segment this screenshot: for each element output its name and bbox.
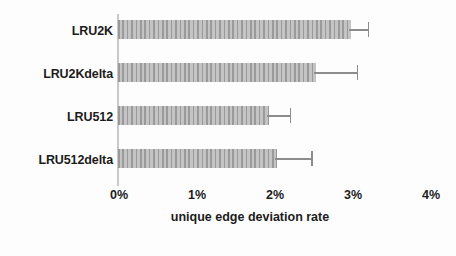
category-label-lru512delta: LRU512delta [1, 153, 113, 167]
x-axis: 0% 1% 2% 3% 4% [0, 188, 456, 206]
x-tick-0: 0% [99, 188, 139, 202]
error-bar-cap-lru512delta [311, 151, 313, 166]
category-label-lru2k: LRU2K [1, 24, 113, 38]
error-bar-line-lru2k [349, 29, 367, 31]
x-tick-2: 2% [255, 188, 295, 202]
error-bar-line-lru512 [267, 115, 290, 117]
bar-lru512 [118, 106, 269, 125]
bar-lru2k [118, 20, 351, 39]
category-label-lru2kdelta: LRU2Kdelta [1, 67, 113, 81]
error-bar-line-lru2kdelta [314, 72, 357, 74]
bar-lru512delta [118, 149, 277, 168]
bar-row [118, 100, 430, 143]
x-tick-4: 4% [411, 188, 451, 202]
x-axis-title: unique edge deviation rate [0, 210, 456, 224]
plot-area [118, 14, 430, 186]
error-bar-cap-lru512 [290, 108, 292, 123]
category-label-column: LRU2K LRU2Kdelta LRU512 LRU512delta [0, 14, 113, 186]
x-tick-1: 1% [177, 188, 217, 202]
bar-row [118, 14, 430, 57]
error-bar-cap-lru2k [368, 22, 370, 37]
bar-lru2kdelta [118, 63, 316, 82]
x-tick-3: 3% [333, 188, 373, 202]
error-bar-line-lru512delta [275, 158, 311, 160]
bar-chart: LRU2K LRU2Kdelta LRU512 LRU512delta [0, 0, 456, 256]
bar-row [118, 143, 430, 186]
error-bar-cap-lru2kdelta [357, 65, 359, 80]
bar-row [118, 57, 430, 100]
category-label-lru512: LRU512 [1, 110, 113, 124]
